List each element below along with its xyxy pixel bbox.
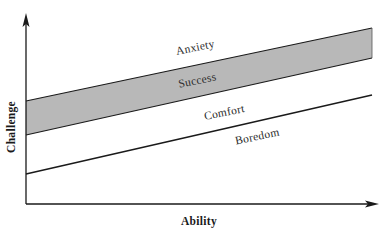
zone-label-anxiety: Anxiety: [175, 37, 216, 58]
zone-label-boredom: Boredom: [234, 126, 280, 147]
zone-label-comfort: Comfort: [203, 102, 246, 122]
y-axis-label: Challenge: [5, 101, 18, 153]
x-axis-label: Ability: [181, 215, 217, 228]
flow-diagram: Anxiety Success Comfort Boredom Challeng…: [0, 0, 383, 235]
